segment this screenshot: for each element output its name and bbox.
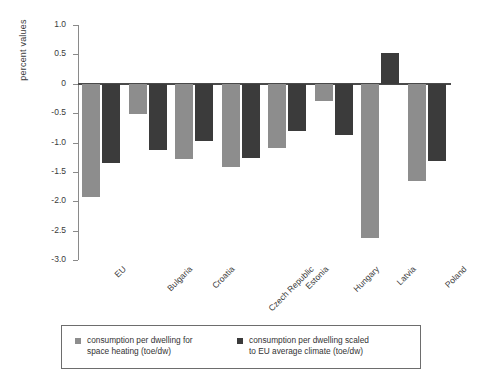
y-axis-tick-label: -2.0 — [36, 195, 66, 205]
bar-group — [405, 25, 452, 260]
legend-label-line2: space heating (toe/dw) — [87, 346, 171, 356]
legend-label: consumption per dwelling for space heati… — [87, 335, 193, 357]
x-axis-tick-label: Latvia — [395, 264, 418, 287]
bar-group — [219, 25, 266, 260]
bar-group — [358, 25, 405, 260]
bar — [222, 84, 240, 167]
y-axis-label: percent values — [18, 0, 28, 110]
bar-group — [79, 25, 126, 260]
bar — [288, 84, 306, 131]
legend-label-line1: consumption per dwelling scaled — [249, 335, 369, 345]
bar — [335, 84, 353, 136]
y-axis-tick: -2.0 — [73, 201, 78, 202]
x-axis-tick-label: Croatia — [210, 264, 236, 290]
bar — [195, 84, 213, 141]
legend-swatch-icon — [75, 338, 81, 344]
y-axis-tick-label: -0.5 — [36, 107, 66, 117]
bar — [268, 84, 286, 149]
y-axis-tick: 0.5 — [73, 54, 78, 55]
y-axis-tick: -2.5 — [73, 231, 78, 232]
y-axis-tick: -1.5 — [73, 172, 78, 173]
bar — [149, 84, 167, 150]
bar-group — [172, 25, 219, 260]
y-axis-tick-label: 0 — [36, 78, 66, 88]
bar — [381, 53, 399, 84]
x-axis-tick-label: EU — [113, 264, 128, 279]
bar-chart-figure: percent values 1.00.50-0.5-1.0-1.5-2.0-2… — [0, 0, 479, 381]
bar — [129, 84, 147, 114]
legend-label-line2: to EU average climate (toe/dw) — [249, 346, 363, 356]
legend-label-line1: consumption per dwelling for — [87, 335, 193, 345]
chart-legend: consumption per dwelling for space heati… — [61, 325, 421, 369]
bar — [315, 84, 333, 101]
x-axis-labels: EUBulgariaCroatiaCzech RepublicEstoniaHu… — [78, 260, 451, 315]
bar-group — [312, 25, 359, 260]
bar — [175, 84, 193, 159]
legend-label: consumption per dwelling scaled to EU av… — [249, 335, 369, 357]
bar-group — [265, 25, 312, 260]
bar — [242, 84, 260, 159]
y-axis-tick-label: -2.5 — [36, 225, 66, 235]
bar — [428, 84, 446, 162]
y-axis-tick: -1.0 — [73, 143, 78, 144]
bar — [102, 84, 120, 163]
x-axis-tick-label: Bulgaria — [165, 264, 194, 293]
y-axis-tick-label: -3.0 — [36, 254, 66, 264]
y-axis-tick-label: -1.0 — [36, 137, 66, 147]
bars-container — [79, 25, 451, 260]
bar — [408, 84, 426, 182]
legend-item: consumption per dwelling for space heati… — [75, 335, 235, 357]
bar-group — [126, 25, 173, 260]
y-axis-tick-label: -1.5 — [36, 166, 66, 176]
legend-item: consumption per dwelling scaled to EU av… — [237, 335, 412, 357]
x-axis-tick-label: Hungary — [351, 264, 381, 294]
legend-swatch-icon — [237, 338, 243, 344]
bar — [82, 84, 100, 197]
y-axis-tick: -0.5 — [73, 113, 78, 114]
plot-area: 1.00.50-0.5-1.0-1.5-2.0-2.5-3.0 — [78, 25, 451, 260]
y-axis-tick-label: 0.5 — [36, 48, 66, 58]
bar — [361, 84, 379, 239]
x-axis-tick-label: Poland — [443, 264, 469, 290]
y-axis-tick-label: 1.0 — [36, 19, 66, 29]
y-axis-tick: 1.0 — [73, 25, 78, 26]
